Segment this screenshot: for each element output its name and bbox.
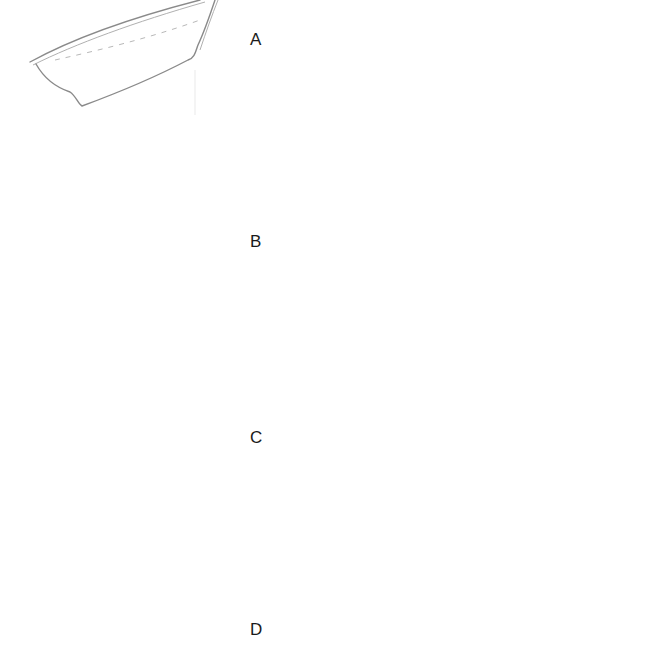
panel-label-d: D	[250, 620, 262, 640]
panel-label-b: B	[250, 232, 261, 252]
panel-label-a: A	[250, 30, 261, 50]
panel-label-c: C	[250, 428, 262, 448]
boat-sketch-a	[30, 0, 218, 115]
sketch-figure	[0, 0, 672, 654]
diagram-canvas: A B C D	[0, 0, 672, 654]
